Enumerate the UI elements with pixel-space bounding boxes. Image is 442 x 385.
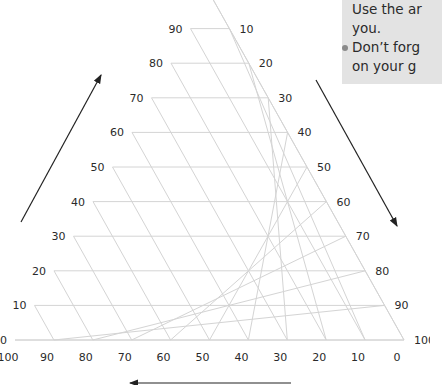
bottom-axis-label: 70 (118, 351, 132, 364)
left-axis-label: 50 (91, 161, 105, 174)
left-axis-label: 90 (169, 23, 183, 36)
bottom-axis-label: 10 (351, 351, 365, 364)
grid-line-diagonal (152, 98, 288, 340)
right-axis-label: 40 (298, 126, 312, 139)
right-axis-label: 50 (317, 161, 331, 174)
right-axis-label: 80 (375, 265, 389, 278)
bottom-axis-label: 40 (234, 351, 248, 364)
bottom-axis-label: 30 (273, 351, 287, 364)
bottom-axis-label: 50 (196, 351, 210, 364)
bottom-axis-label: 0 (394, 351, 401, 364)
right-axis-label: 90 (395, 299, 409, 312)
callout-text-line-3: Don’t forg (352, 38, 420, 57)
grid-line-diagonal (113, 167, 210, 340)
left-axis-label: 0 (0, 334, 7, 347)
grid-line-diagonal (210, 167, 308, 340)
left-axis-label: 70 (130, 92, 144, 105)
bottom-axis-label: 80 (79, 351, 93, 364)
grid-line-diagonal (74, 236, 132, 340)
callout-text-line-1: Use the ar (352, 0, 422, 19)
bottom-axis-label: 20 (312, 351, 326, 364)
instruction-callout: Use the ar you. Don’t forg on your g (342, 0, 442, 84)
left-axis-label: 20 (32, 265, 46, 278)
grid-line-diagonal (35, 305, 54, 340)
bottom-axis-label: 60 (157, 351, 171, 364)
callout-text-line-2: you. (352, 19, 381, 38)
left-axis-label: 80 (149, 57, 163, 70)
right-axis-label: 30 (278, 92, 292, 105)
bottom-axis-label: 100 (0, 351, 19, 364)
callout-text-line-4: on your g (352, 57, 416, 76)
right-axis-label: 60 (336, 196, 350, 209)
bullet-icon (342, 45, 348, 51)
left-axis-label: 10 (13, 299, 27, 312)
right-axis-label: 100 (414, 334, 430, 347)
left-axis-arrow (21, 75, 101, 222)
right-axis-label: 10 (239, 23, 253, 36)
right-axis-label: 20 (259, 57, 273, 70)
bottom-axis-label: 90 (40, 351, 54, 364)
left-axis-label: 40 (71, 196, 85, 209)
left-axis-label: 60 (110, 126, 124, 139)
right-axis-label: 70 (356, 230, 370, 243)
left-axis-label: 30 (52, 230, 66, 243)
